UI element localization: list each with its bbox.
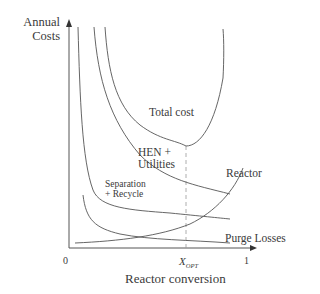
separation-recycle-curve [78, 27, 230, 219]
x-opt-subscript: OPT [186, 262, 198, 269]
separation-recycle-label: Separation + Recycle [105, 180, 146, 200]
y-axis-label-line1: Annual [20, 16, 60, 29]
total-cost-curve [105, 27, 224, 146]
reactor-label: Reactor [226, 167, 262, 179]
reactor-curve [75, 168, 243, 243]
y-axis-arrow-icon [66, 19, 72, 27]
total-cost-label: Total cost [149, 106, 194, 118]
purge-losses-label: Purge Losses [225, 232, 286, 244]
y-axis-label: Annual Costs [20, 16, 60, 43]
x-tick-1: 1 [244, 256, 249, 267]
x-axis-label: Reactor conversion [125, 272, 226, 286]
hen-utilities-label: HEN + Utilities [138, 146, 175, 170]
sep-label-line2: + Recycle [105, 190, 146, 200]
hen-label-line1: HEN + [138, 146, 175, 158]
hen-label-line2: Utilities [138, 158, 175, 170]
x-tick-xopt: XOPT [179, 256, 198, 270]
x-tick-0: 0 [63, 256, 68, 267]
x-opt-main: X [179, 255, 186, 267]
x-axis-arrow-icon [250, 245, 257, 251]
y-axis-label-line2: Costs [20, 30, 60, 43]
